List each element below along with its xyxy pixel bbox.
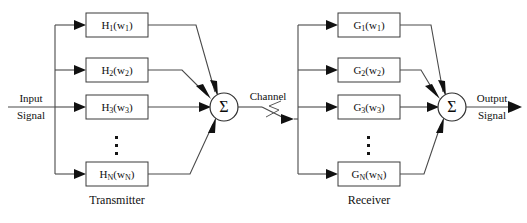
tx-arrow-sum-n [208, 117, 216, 133]
rx-wire-n-to-sum [400, 124, 441, 174]
input-label-line2: Signal [17, 109, 45, 121]
tx-wire-1-to-sum [148, 25, 215, 92]
rx-arrow-into-block-2 [326, 65, 338, 75]
input-label-line1: Input [19, 92, 42, 104]
transmitter-section-label: Transmitter [89, 193, 145, 207]
tx-sigma-symbol: Σ [219, 98, 228, 115]
rx-arrow-sum-3 [427, 102, 439, 112]
rx-arrow-sum-n [436, 117, 444, 133]
tx-arrow-sum-2 [196, 84, 211, 99]
rx-arrow-into-block-1 [326, 20, 338, 30]
diagram-svg: H1(w1) H2(w2) H3(w3) HN(wN) Σ Channel G1… [0, 0, 527, 223]
zigzag-channel-icon [266, 101, 281, 117]
channel-label: Channel [250, 90, 287, 102]
receiver-section-label: Receiver [348, 193, 391, 207]
rx-sigma-symbol: Σ [447, 98, 456, 115]
tx-wire-2-to-sum [148, 70, 207, 95]
tx-arrow-into-block-n [74, 169, 86, 179]
rx-arrow-into-block-n [326, 169, 338, 179]
rx-wire-1-to-sum [400, 25, 443, 92]
output-arrow-head [508, 101, 522, 113]
tx-ellipsis [115, 136, 118, 155]
rx-ellipsis [367, 136, 370, 155]
tx-arrow-into-block-1 [74, 20, 86, 30]
rx-wire-2-to-sum [400, 70, 436, 95]
channel-arrow-head [281, 114, 294, 124]
tx-arrow-sum-3 [199, 102, 211, 112]
rx-arrow-into-block-3 [326, 102, 338, 112]
output-label-line1: Output [477, 92, 508, 104]
tx-arrow-into-block-2 [74, 65, 86, 75]
output-label-line2: Signal [478, 109, 506, 121]
block-diagram-canvas: H1(w1) H2(w2) H3(w3) HN(wN) Σ Channel G1… [0, 0, 527, 223]
rx-arrow-sum-2 [425, 84, 440, 99]
tx-wire-n-to-sum [148, 124, 213, 174]
tx-arrow-into-block-3 [74, 102, 86, 112]
